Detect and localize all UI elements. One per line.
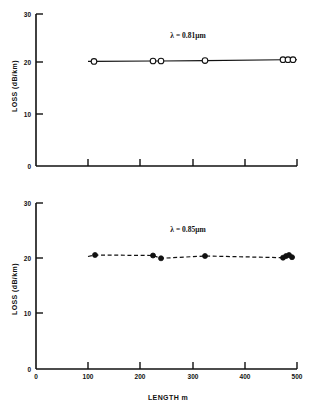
bottom-panel-y-ticks: [36, 203, 43, 313]
bottom-panel-x-ticks: [88, 362, 297, 369]
bottom-panel-xtick-label-400: 400: [240, 373, 251, 380]
loss-vs-length-figure: 30 20 10 0 LOSS (dB/km) λ = 0.81μm: [0, 0, 315, 414]
bottom-panel: 30 20 10 0 0 100 200 300 400 500 LOSS (d…: [11, 200, 303, 402]
top-panel-y-ticks: [36, 14, 43, 114]
bottom-panel-xtick-label-200: 200: [135, 373, 146, 380]
top-panel-ytick-label-10: 10: [24, 111, 32, 118]
bottom-panel-xtick-label-0: 0: [34, 373, 38, 380]
bottom-panel-ytick-label-20: 20: [24, 255, 32, 262]
bottom-panel-ytick-label-10: 10: [24, 310, 32, 317]
top-panel-x-ticks: [88, 159, 297, 166]
figure-container: 30 20 10 0 LOSS (dB/km) λ = 0.81μm: [0, 0, 315, 414]
top-panel-ytick-label-20: 20: [24, 59, 32, 66]
top-panel-y-axis-title: LOSS (dB/km): [11, 60, 19, 112]
bottom-panel-x-axis-title: LENGTH m: [148, 394, 188, 401]
bottom-panel-xtick-label-300: 300: [188, 373, 199, 380]
bottom-panel-xtick-label-100: 100: [83, 373, 94, 380]
bottom-panel-wavelength-annotation: λ = 0.85μm: [170, 225, 206, 234]
bottom-panel-data-line: [88, 255, 297, 258]
top-panel: 30 20 10 0 LOSS (dB/km) λ = 0.81μm: [11, 11, 297, 170]
bottom-panel-xtick-label-500: 500: [292, 373, 303, 380]
top-panel-ytick-label-0: 0: [27, 163, 31, 170]
bottom-panel-y-axis-title: LOSS (dB/km): [11, 263, 19, 315]
bottom-panel-ytick-label-0: 0: [27, 366, 31, 373]
top-panel-wavelength-annotation: λ = 0.81μm: [170, 31, 206, 40]
top-panel-data-line: [88, 60, 297, 62]
bottom-panel-ytick-label-30: 30: [24, 200, 32, 207]
top-panel-ytick-label-30: 30: [24, 11, 32, 18]
